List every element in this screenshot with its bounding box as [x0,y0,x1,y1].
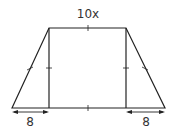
trapezoid-outline [12,28,165,108]
top-side-label: 10x [77,7,99,21]
bottom-right-label: 8 [142,115,150,129]
arrowhead-icon [126,110,132,114]
arrowhead-icon [12,110,18,114]
bottom-left-label: 8 [26,115,34,129]
arrowhead-icon [43,110,49,114]
trapezoid-diagram: 10x 8 8 [0,0,179,134]
arrowhead-icon [159,110,165,114]
